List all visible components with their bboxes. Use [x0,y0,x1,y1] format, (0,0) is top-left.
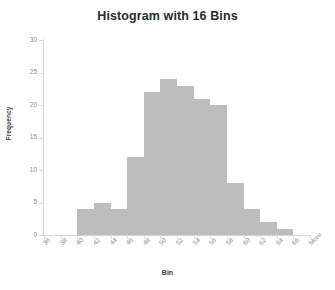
y-tick-mark [39,235,43,236]
x-tick-mark [77,235,78,239]
y-tick-mark [39,73,43,74]
y-tick-mark [39,105,43,106]
plot-area [44,40,310,235]
bar [144,92,161,235]
bar-series [44,40,310,235]
x-tick-mark [244,235,245,239]
x-tick-mark [160,235,161,239]
y-tick-label: 0 [21,232,37,239]
x-axis-title: Bin [0,269,335,276]
x-tick-mark [127,235,128,239]
y-tick-label: 10 [21,167,37,174]
x-tick-mark [177,235,178,239]
chart-title: Histogram with 16 Bins [0,9,335,23]
bar [260,222,277,235]
x-tick-mark [260,235,261,239]
bar [111,209,128,235]
y-tick-label: 15 [21,134,37,141]
y-tick-mark [39,138,43,139]
y-axis-tick-labels: 051015202530 [18,0,37,290]
bar [210,105,227,235]
x-tick-mark [310,235,311,239]
x-tick-mark [44,235,45,239]
y-axis-title: Frequency [5,94,12,154]
y-tick-label: 5 [21,199,37,206]
y-tick-label: 20 [21,102,37,109]
bar [77,209,94,235]
y-tick-label: 25 [21,69,37,76]
x-tick-mark [210,235,211,239]
y-tick-label: 30 [21,37,37,44]
bar [177,86,194,236]
histogram-chart: Histogram with 16 Bins Frequency 0510152… [0,0,335,290]
x-tick-mark [61,235,62,239]
bar [244,209,261,235]
x-tick-mark [277,235,278,239]
bar [227,183,244,235]
bar [194,99,211,236]
x-tick-mark [94,235,95,239]
y-tick-mark [39,170,43,171]
x-tick-mark [144,235,145,239]
y-tick-mark [39,40,43,41]
x-tick-mark [111,235,112,239]
x-tick-mark [293,235,294,239]
y-tick-mark [39,203,43,204]
bar [160,79,177,235]
x-tick-label: More [308,232,323,247]
bar [127,157,144,235]
x-tick-mark [194,235,195,239]
x-tick-mark [227,235,228,239]
bar [277,229,294,236]
bar [94,203,111,236]
